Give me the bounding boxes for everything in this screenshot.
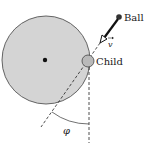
center-pivot-dot — [43, 58, 47, 62]
angle-phi-label: φ — [63, 125, 70, 136]
physics-diagram: Ball Child v φ — [0, 0, 149, 154]
child-circle — [82, 55, 94, 67]
child-label: Child — [96, 56, 123, 67]
vector-overarrow-head-icon — [112, 37, 114, 39]
ball-label: Ball — [124, 12, 144, 23]
velocity-arrow-shaft — [104, 19, 118, 38]
angle-arc — [52, 112, 89, 124]
velocity-label: v — [108, 40, 113, 49]
